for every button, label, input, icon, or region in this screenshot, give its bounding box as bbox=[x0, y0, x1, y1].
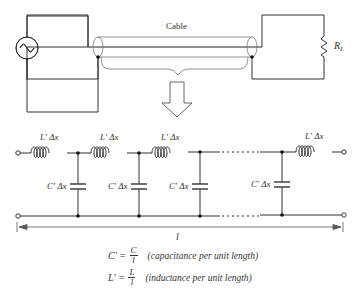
inductor-icon bbox=[31, 147, 49, 158]
terminal-top-left bbox=[16, 151, 20, 155]
equation-inductance: L′ = L l (inductance per unit length) bbox=[108, 268, 252, 287]
capacitor-label: C′ Δx bbox=[169, 181, 189, 191]
inductor-label: L′ Δx bbox=[39, 132, 59, 142]
inductor-icon bbox=[152, 147, 170, 158]
capacitor-label: C′ Δx bbox=[108, 181, 128, 191]
brace bbox=[101, 57, 248, 75]
inductor-icon bbox=[296, 146, 314, 157]
cable-label: Cable bbox=[166, 21, 187, 31]
capacitor-3 bbox=[192, 152, 208, 216]
capacitor-1 bbox=[70, 153, 86, 216]
load-label: RL bbox=[333, 40, 344, 53]
terminal-bottom-left bbox=[16, 214, 20, 218]
capacitor-label: C′ Δx bbox=[251, 179, 271, 189]
inductor-icon bbox=[91, 147, 109, 158]
fraction: C l bbox=[130, 246, 138, 265]
length-label: l bbox=[176, 231, 179, 242]
inductor-label: L′ Δx bbox=[99, 132, 119, 142]
capacitor-label: C′ Δx bbox=[47, 181, 67, 191]
shield-junction-dot bbox=[96, 55, 100, 59]
down-arrow-icon bbox=[162, 82, 192, 117]
inductor-label: L′ Δx bbox=[304, 131, 324, 141]
cable bbox=[88, 37, 262, 75]
terminal-bottom-right bbox=[342, 213, 346, 217]
resistor-icon bbox=[321, 36, 327, 57]
inductor-label: L′ Δx bbox=[160, 132, 180, 142]
capacitor-2 bbox=[131, 153, 147, 216]
capacitor-4 bbox=[274, 152, 290, 215]
equation-capacitance: C′ = C l (capacitance per unit length) bbox=[108, 246, 258, 265]
sine-wave-icon bbox=[20, 44, 34, 52]
fraction: L l bbox=[128, 268, 135, 287]
terminal-top-right bbox=[342, 150, 346, 154]
length-dimension bbox=[17, 222, 343, 232]
